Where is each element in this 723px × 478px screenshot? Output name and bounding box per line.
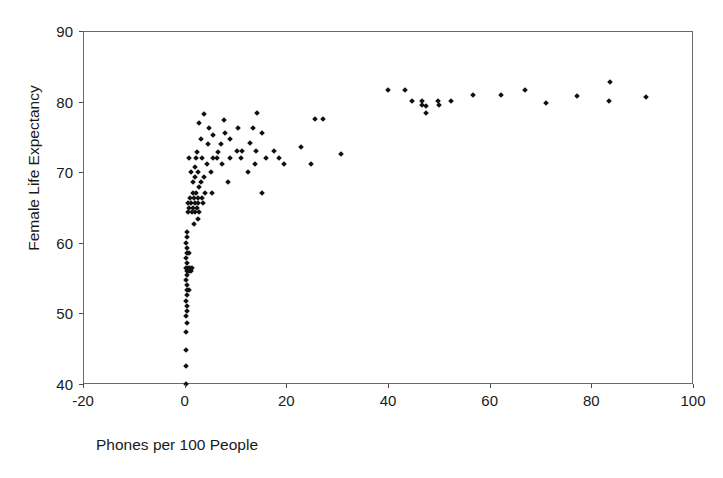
x-axis-tick-label: 20 (262, 393, 310, 408)
y-axis-tick (79, 243, 83, 244)
y-axis-tick-label: 90 (37, 24, 73, 39)
y-axis-tick (79, 102, 83, 103)
plot-frame (83, 31, 693, 384)
x-axis-tick (693, 384, 694, 388)
x-axis-tick-label: 80 (567, 393, 615, 408)
y-axis-tick-label: 80 (37, 95, 73, 110)
x-axis-title: Phones per 100 People (96, 437, 258, 453)
x-axis-tick-label: 40 (364, 393, 412, 408)
y-axis-tick-label: 50 (37, 306, 73, 321)
x-axis-tick (388, 384, 389, 388)
y-axis-tick (79, 172, 83, 173)
y-axis-tick-label: 70 (37, 165, 73, 180)
y-axis-tick-label: 60 (37, 236, 73, 251)
x-axis-tick (185, 384, 186, 388)
x-axis-tick (490, 384, 491, 388)
x-axis-tick (83, 384, 84, 388)
x-axis-tick-label: 0 (161, 393, 209, 408)
scan-artifact (0, 0, 723, 8)
x-axis-tick-label: -20 (59, 393, 107, 408)
x-axis-tick-label: 60 (466, 393, 514, 408)
x-axis-tick-label: 100 (669, 393, 717, 408)
y-axis-tick-label: 40 (37, 377, 73, 392)
y-axis-tick (79, 313, 83, 314)
scatter-plot-figure: 405060708090-20020406080100 Female Life … (0, 0, 723, 478)
y-axis-title: Female Life Expectancy (26, 58, 42, 278)
y-axis-tick (79, 31, 83, 32)
x-axis-tick (591, 384, 592, 388)
x-axis-tick (286, 384, 287, 388)
